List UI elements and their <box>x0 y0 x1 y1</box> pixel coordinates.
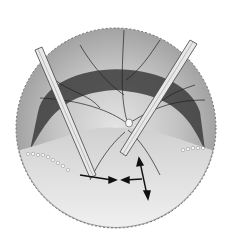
retina-surgery-illustration <box>0 0 232 242</box>
detached-retina-flap <box>20 128 212 240</box>
optic-disc <box>126 119 133 127</box>
